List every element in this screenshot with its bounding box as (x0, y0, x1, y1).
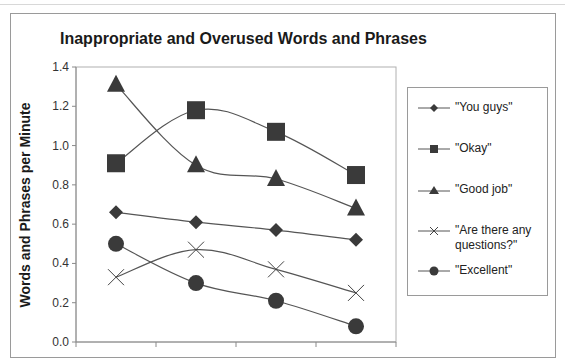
y-tick-label: 1.0 (52, 139, 69, 153)
series-line (116, 109, 356, 175)
diamond-marker-icon (189, 215, 203, 229)
legend-item-questions: "Are there any questions?" (416, 223, 550, 253)
y-tick-label: 0.4 (52, 256, 69, 270)
y-tick-label: 1.4 (52, 60, 69, 74)
legend-label: "Okay" (455, 141, 550, 156)
circle-marker-icon (108, 236, 124, 252)
y-tick-label: 0.6 (52, 217, 69, 231)
circle-marker-icon (188, 275, 204, 291)
triangle-marker-icon (416, 183, 452, 197)
circle-marker-icon (348, 318, 364, 334)
triangle-marker-icon (107, 75, 125, 92)
y-tick-label: 1.2 (52, 99, 69, 113)
legend-label: "You guys" (455, 100, 550, 115)
square-marker-icon (267, 123, 285, 141)
diamond-marker-icon (349, 233, 363, 247)
legend-item-excellent: "Excellent" (416, 263, 550, 278)
legend-label: "Excellent" (455, 263, 550, 278)
square-marker-icon (347, 166, 365, 184)
square-marker-icon (187, 101, 205, 119)
triangle-marker-icon (347, 198, 365, 215)
legend-item-good-job: "Good job" (416, 182, 550, 197)
legend-item-you-guys: "You guys" (416, 100, 550, 115)
diamond-marker-icon (416, 101, 452, 115)
square-marker-icon (107, 154, 125, 172)
legend-item-okay: "Okay" (416, 141, 550, 156)
series-line (116, 212, 356, 240)
square-marker-icon (416, 142, 452, 156)
legend: "You guys" "Okay" "Good job" "Are there … (407, 87, 548, 296)
triangle-marker-icon (187, 155, 205, 172)
legend-label: "Are there any questions?" (455, 223, 550, 253)
circle-marker-icon (268, 293, 284, 309)
diamond-marker-icon (109, 205, 123, 219)
legend-label: "Good job" (455, 182, 550, 197)
series-line (116, 250, 356, 293)
y-tick-label: 0.0 (52, 335, 69, 347)
x-marker-icon (416, 224, 452, 238)
series-line (116, 85, 356, 209)
circle-marker-icon (416, 264, 452, 278)
y-tick-label: 0.2 (52, 296, 69, 310)
diamond-marker-icon (269, 223, 283, 237)
y-tick-label: 0.8 (52, 178, 69, 192)
